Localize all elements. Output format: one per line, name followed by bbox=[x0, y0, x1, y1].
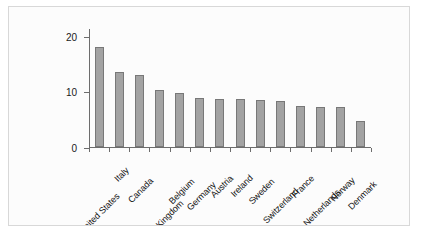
bar-slot bbox=[230, 29, 250, 147]
bar-slot bbox=[351, 29, 371, 147]
bar-slot bbox=[270, 29, 290, 147]
x-axis-tick bbox=[371, 148, 372, 152]
bar bbox=[195, 98, 204, 147]
bar bbox=[95, 47, 104, 147]
bar bbox=[215, 99, 224, 147]
bar bbox=[155, 90, 164, 147]
bar bbox=[316, 107, 325, 147]
bar bbox=[175, 93, 184, 147]
x-axis-category-label: United States bbox=[77, 191, 121, 226]
x-axis-category-labels: United StatesItalyCanadaUnited KingdomBe… bbox=[89, 150, 371, 222]
bar bbox=[236, 99, 245, 147]
bar-slot bbox=[311, 29, 331, 147]
bar bbox=[356, 121, 365, 147]
bar-series bbox=[89, 29, 371, 147]
bar bbox=[296, 106, 305, 147]
bar-slot bbox=[250, 29, 270, 147]
y-axis-tick-label: 0 bbox=[71, 142, 77, 153]
x-axis-category-label: Italy bbox=[113, 165, 131, 183]
bar-slot bbox=[331, 29, 351, 147]
bar bbox=[276, 101, 285, 147]
bar-slot bbox=[210, 29, 230, 147]
bar bbox=[256, 100, 265, 147]
chart-figure: 01020 United StatesItalyCanadaUnited Kin… bbox=[8, 6, 410, 226]
bar-slot bbox=[190, 29, 210, 147]
y-axis-tick-label: 10 bbox=[66, 87, 77, 98]
bar-slot bbox=[109, 29, 129, 147]
bar bbox=[336, 107, 345, 147]
bar-slot bbox=[149, 29, 169, 147]
bar-slot bbox=[290, 29, 310, 147]
bar bbox=[135, 75, 144, 147]
bar-slot bbox=[89, 29, 109, 147]
plot-area: 01020 bbox=[89, 29, 371, 148]
bar-slot bbox=[170, 29, 190, 147]
bar-slot bbox=[129, 29, 149, 147]
bar bbox=[115, 72, 124, 147]
x-axis-category-label: Canada bbox=[127, 176, 156, 205]
y-axis-tick-label: 20 bbox=[66, 32, 77, 43]
